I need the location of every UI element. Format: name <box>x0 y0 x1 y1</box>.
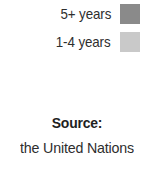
legend-item-label: 5+ years <box>60 7 111 22</box>
legend-item-label: 1-4 years <box>56 35 111 50</box>
source-attribution: Source: the United Nations <box>0 115 154 156</box>
legend-item-1-4-years[interactable]: 1-4 years <box>0 28 154 56</box>
source-heading: Source: <box>5 115 148 131</box>
chart-legend: 5+ years 1-4 years <box>0 0 154 56</box>
legend-color-swatch <box>120 4 140 24</box>
legend-item-5-plus-years[interactable]: 5+ years <box>0 0 154 28</box>
source-name: the United Nations <box>4 139 150 156</box>
legend-color-swatch <box>120 32 140 52</box>
